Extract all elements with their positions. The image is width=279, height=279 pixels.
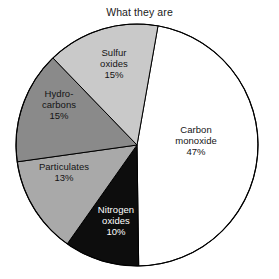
slice-value: 15% [83,69,145,80]
slice-value: 10% [83,226,149,237]
slice-label-nitrogen-oxides: Nitrogen oxides 10% [83,204,149,238]
slice-label-line: Nitrogen [83,204,149,215]
slice-label-line: Sulfur [83,47,145,58]
slice-label-line: monoxide [159,135,233,146]
slice-value: 15% [28,110,90,121]
slice-label-line: oxides [83,215,149,226]
slice-label-line: carbons [28,99,90,110]
pie-chart-figure: What they are Carbon monoxide 47% Sulfur… [0,0,279,279]
slice-value: 13% [23,172,105,183]
slice-label-line: Particulates [23,161,105,172]
slice-label-hydrocarbons: Hydro- carbons 15% [28,88,90,122]
slice-value: 47% [159,146,233,157]
slice-label-particulates: Particulates 13% [23,161,105,183]
slice-label-carbon-monoxide: Carbon monoxide 47% [159,124,233,158]
slice-label-line: oxides [83,58,145,69]
slice-label-line: Hydro- [28,88,90,99]
slice-label-line: Carbon [159,124,233,135]
slice-label-sulfur-oxides: Sulfur oxides 15% [83,47,145,81]
